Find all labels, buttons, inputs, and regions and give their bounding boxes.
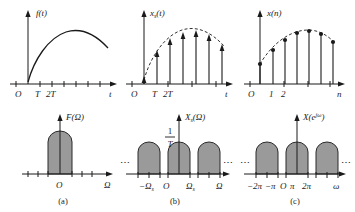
panel-bottom-middle: 1 T ⋯ ⋯ Xs(Ω) −Ωs O Ωs Ω (b) <box>120 104 238 210</box>
tick-label-minus-pi: −π <box>265 181 276 191</box>
sample-marker <box>271 48 275 52</box>
origin-label: O <box>163 181 170 191</box>
tick-label-2T: 2T <box>46 89 57 99</box>
tick-label-2pi: 2π <box>302 181 312 191</box>
spectrum-lobe-left <box>138 142 160 174</box>
impulse-arrowhead <box>168 38 173 45</box>
panel-caption: (c) <box>290 196 300 206</box>
ellipsis-right: ⋯ <box>341 157 352 168</box>
signal-processing-figure: f(t) O T 2T t <box>0 0 355 212</box>
signal-label: x(n) <box>266 8 282 18</box>
signal-curve <box>28 30 108 82</box>
tick-label-omega-s: Ωs <box>186 181 196 192</box>
x-axis-label: Ω <box>104 180 111 190</box>
origin-label: O <box>248 89 255 99</box>
x-axis-arrowhead <box>339 171 346 176</box>
plot-F-of-omega: F(Ω) O Ω (a) <box>4 104 122 210</box>
tick-label-pi: π <box>290 181 295 191</box>
signal-label: f(t) <box>36 8 47 18</box>
ellipsis-right: ⋯ <box>223 157 234 168</box>
sample-marker <box>319 32 323 36</box>
signal-label: Xs(Ω) <box>184 112 205 123</box>
y-axis-arrowhead <box>25 10 30 17</box>
amplitude-numerator: 1 <box>168 126 173 136</box>
x-axis-arrowhead <box>226 81 233 86</box>
x-axis-label: t <box>109 89 112 99</box>
panel-top-left: f(t) O T 2T t <box>4 2 122 102</box>
x-axis-label: t <box>225 89 228 99</box>
impulse-arrowhead <box>181 32 186 39</box>
sample-marker <box>258 62 262 66</box>
plot-x-of-n: x(n) O 1 2 n <box>240 2 355 102</box>
tick-label-minus-omega-s: −Ωs <box>139 181 155 192</box>
plot-X-of-exp-j-omega: ⋯ ⋯ X(ejω) −2π −π O π 2π ω (c) <box>240 104 355 210</box>
plot-xs-of-t: xs(t) O T 2T t <box>120 2 238 102</box>
origin-label: O <box>15 89 22 99</box>
sample-marker <box>307 29 311 33</box>
sample-marker <box>283 38 287 42</box>
y-axis-arrowhead <box>141 10 146 17</box>
y-axis-arrowhead <box>57 114 62 121</box>
x-axis-arrowhead <box>223 171 230 176</box>
y-axis-arrowhead <box>294 114 299 121</box>
panel-bottom-right: ⋯ ⋯ X(ejω) −2π −π O π 2π ω (c) <box>240 104 355 210</box>
ellipsis-left: ⋯ <box>240 157 251 168</box>
plot-Xs-of-omega: 1 T ⋯ ⋯ Xs(Ω) −Ωs O Ωs Ω (b) <box>120 104 238 210</box>
origin-label: O <box>280 181 287 191</box>
impulse-arrowhead <box>194 30 199 37</box>
signal-label: F(Ω) <box>65 112 84 122</box>
impulse-train <box>142 30 225 84</box>
plot-f-of-t: f(t) O T 2T t <box>4 2 122 102</box>
x-axis-arrowhead <box>338 81 345 86</box>
spectrum-lobe-right <box>316 142 338 174</box>
x-axis-label: Ω <box>216 181 223 191</box>
tick-label-2: 2 <box>281 89 286 99</box>
tick-label-2T: 2T <box>163 89 174 99</box>
sample-marker <box>331 40 335 44</box>
tick-label-1: 1 <box>269 89 274 99</box>
x-axis-label: ω <box>333 181 339 191</box>
origin-label: O <box>131 89 138 99</box>
x-axis-arrowhead <box>106 171 113 176</box>
panel-caption: (a) <box>58 196 68 206</box>
panel-bottom-left: F(Ω) O Ω (a) <box>4 104 122 210</box>
panel-top-middle: xs(t) O T 2T t <box>120 2 238 102</box>
y-axis-arrowhead <box>176 114 181 121</box>
signal-label: X(ejω) <box>302 112 324 122</box>
y-axis-arrowhead <box>257 10 262 17</box>
sample-marker <box>295 31 299 35</box>
panel-top-right: x(n) O 1 2 n <box>240 2 355 102</box>
ellipsis-left: ⋯ <box>120 157 131 168</box>
tick-label-minus-2pi: −2π <box>247 181 263 191</box>
x-axis-label: n <box>337 89 342 99</box>
signal-label: xs(t) <box>149 8 165 19</box>
tick-label-T: T <box>152 89 158 99</box>
origin-label: O <box>56 180 63 190</box>
x-axis-arrowhead <box>110 81 117 86</box>
panel-caption: (b) <box>170 196 180 206</box>
spectrum-lobe-left <box>256 142 278 174</box>
tick-label-T: T <box>35 89 41 99</box>
spectrum-lobe-right <box>198 142 220 174</box>
stem-plot <box>258 29 335 84</box>
